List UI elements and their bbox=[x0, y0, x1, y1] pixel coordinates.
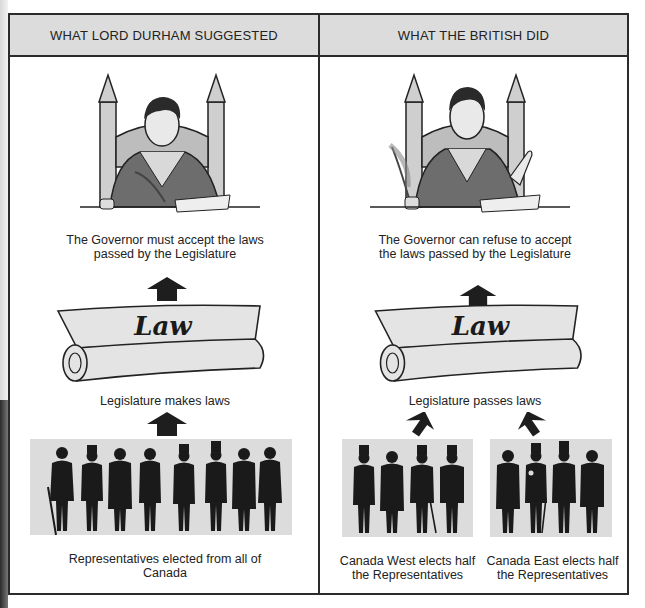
header-british: WHAT THE BRITISH DID bbox=[320, 15, 627, 55]
canada-west-representatives-box bbox=[342, 439, 473, 537]
canada-east-silhouettes bbox=[490, 439, 612, 537]
governor-can-refuse-caption: The Governor can refuse to accept the la… bbox=[370, 233, 580, 261]
governor-writing-illustration bbox=[80, 67, 260, 217]
canada-west-silhouettes bbox=[342, 439, 473, 537]
law-scroll-illustration: Law bbox=[55, 303, 270, 385]
governor-refusing-illustration bbox=[370, 67, 570, 217]
representatives-silhouettes bbox=[30, 439, 292, 535]
law-label: Law bbox=[451, 311, 511, 341]
legislature-makes-laws-caption: Legislature makes laws bbox=[60, 394, 270, 408]
canada-west-caption: Canada West elects half the Representati… bbox=[330, 554, 485, 582]
arrow-up-right-icon bbox=[405, 412, 437, 438]
arrow-up-icon bbox=[147, 412, 187, 436]
representatives-all-canada-box bbox=[30, 439, 292, 535]
governor-must-accept-caption: The Governor must accept the laws passed… bbox=[60, 233, 270, 261]
law-scroll-illustration: Law bbox=[370, 303, 590, 385]
arrow-up-icon bbox=[147, 277, 187, 301]
panel-british-action: The Governor can refuse to accept the la… bbox=[320, 57, 629, 593]
canada-east-representatives-box bbox=[490, 439, 612, 537]
law-label: Law bbox=[133, 311, 193, 341]
arrow-up-left-icon bbox=[515, 412, 547, 438]
representatives-all-canada-caption: Representatives elected from all of Cana… bbox=[50, 552, 280, 580]
header-lord-durham: WHAT LORD DURHAM SUGGESTED bbox=[10, 15, 318, 55]
comparison-diagram: WHAT LORD DURHAM SUGGESTED WHAT THE BRIT… bbox=[8, 13, 629, 595]
page-edge-shadow-dark bbox=[0, 400, 8, 608]
legislature-passes-laws-caption: Legislature passes laws bbox=[370, 394, 580, 408]
canada-east-caption: Canada East elects half the Representati… bbox=[480, 554, 625, 582]
panel-durham-suggestion: The Governor must accept the laws passed… bbox=[10, 57, 318, 593]
